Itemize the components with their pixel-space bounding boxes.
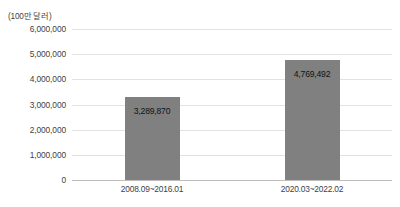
y-axis-tick-label: 2,000,000	[6, 125, 66, 135]
y-axis-unit-label: (100만 달러)	[8, 9, 52, 21]
x-axis-category-label: 2008.09~2016.01	[121, 184, 183, 194]
plot-area: 3,289,8704,769,492	[72, 29, 392, 180]
bar-chart: (100만 달러) 01,000,0002,000,0003,000,0004,…	[0, 0, 400, 207]
gridline	[72, 155, 392, 156]
bar-group[interactable]: 3,289,870	[125, 29, 180, 180]
y-axis-tick-label: 6,000,000	[6, 24, 66, 34]
y-axis-tick-label: 3,000,000	[6, 100, 66, 110]
gridline	[72, 29, 392, 30]
bar-group[interactable]: 4,769,492	[285, 29, 340, 180]
x-axis-category-label: 2020.03~2022.02	[281, 184, 343, 194]
y-axis-tick-label: 0	[6, 175, 66, 185]
y-axis-tick-label: 5,000,000	[6, 49, 66, 59]
gridline	[72, 79, 392, 80]
bar-value-label: 3,289,870	[125, 106, 180, 116]
y-axis-tick-label: 4,000,000	[6, 74, 66, 84]
axis-baseline	[72, 180, 392, 181]
gridline	[72, 130, 392, 131]
bar-value-label: 4,769,492	[285, 69, 340, 79]
gridline	[72, 54, 392, 55]
y-axis-tick-label: 1,000,000	[6, 150, 66, 160]
gridline	[72, 105, 392, 106]
